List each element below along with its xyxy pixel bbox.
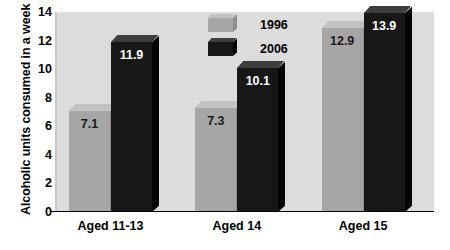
y-tick-label-12: 12 (26, 34, 52, 47)
bar-1996-aged-14: 7.3 (195, 108, 236, 212)
x-axis-category-labels: Aged 11-13Aged 14Aged 15 (55, 218, 434, 240)
category-label-aged-15: Aged 15 (322, 218, 405, 234)
legend-label-2006: 2006 (260, 41, 288, 57)
y-tick-label-8: 8 (26, 91, 52, 104)
bar-2006-aged-15: 13.9 (364, 13, 405, 212)
chart-legend: 1996 2006 (208, 16, 318, 64)
x-axis-line (51, 211, 434, 213)
legend-swatch-2006-icon (208, 42, 233, 56)
category-label-aged-11-13: Aged 11-13 (69, 218, 152, 234)
y-axis-line (55, 12, 57, 212)
y-tick-label-4: 4 (26, 149, 52, 162)
legend-label-1996: 1996 (260, 17, 288, 33)
legend-swatch-1996-icon (208, 18, 233, 32)
bar-2006-aged-11-13: 11.9 (111, 42, 152, 212)
y-tick-label-0: 0 (26, 206, 52, 219)
y-axis-tick-labels: 02468101214 (26, 12, 52, 212)
bar-chart: Alcoholic units consumed in a week 02468… (0, 0, 450, 250)
plot-area: 1996 2006 7.111.97.310.112.913.9 (55, 12, 434, 212)
bar-1996-aged-15: 12.9 (322, 28, 363, 212)
y-tick-label-2: 2 (26, 177, 52, 190)
category-label-aged-14: Aged 14 (195, 218, 278, 234)
bar-2006-aged-14: 10.1 (237, 68, 278, 212)
y-tick-label-6: 6 (26, 120, 52, 133)
bar-1996-aged-11-13: 7.1 (69, 111, 110, 212)
y-tick-label-10: 10 (26, 63, 52, 76)
legend-item-1996: 1996 (208, 16, 318, 40)
y-tick-label-14: 14 (26, 6, 52, 19)
